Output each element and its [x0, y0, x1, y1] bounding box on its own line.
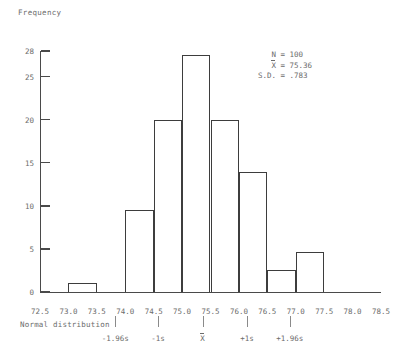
sd-marker-mean: X — [200, 334, 205, 343]
histogram-bar — [239, 172, 267, 293]
y-axis-title: Frequency — [18, 8, 61, 17]
x-tick-label: 76.0 — [224, 307, 254, 316]
stat-mean-value: = 75.36 — [281, 61, 313, 70]
stats-annotation: N = 100 X = 75.36 S.D. = .783 — [250, 50, 312, 82]
y-tick-label: 0 — [8, 288, 34, 297]
sd-marker-label: X — [183, 334, 223, 343]
sd-tick-mark — [203, 316, 204, 327]
stat-n: N = 100 — [250, 50, 312, 61]
sd-tick-mark — [247, 316, 248, 327]
histogram-bar — [182, 55, 210, 292]
histogram-bar — [154, 120, 182, 292]
x-tick-label: 78.5 — [366, 307, 395, 316]
stat-sd-label: S.D. — [250, 71, 276, 82]
x-tick-label: 74.0 — [110, 307, 140, 316]
sd-tick-mark — [115, 316, 116, 327]
stat-mean: X = 75.36 — [250, 61, 312, 72]
histogram-bar — [125, 210, 153, 292]
stat-sd: S.D. = .783 — [250, 71, 312, 82]
histogram-bar — [211, 120, 239, 292]
stat-sd-value: = .783 — [281, 71, 308, 80]
histogram-bar — [267, 270, 295, 292]
y-tick-label: 5 — [8, 245, 34, 254]
stat-mean-label: X — [271, 61, 276, 72]
x-axis-title: Normal distribution — [20, 320, 110, 329]
sd-marker-label: -1.96s — [95, 334, 135, 343]
x-tick-label: 73.0 — [53, 307, 83, 316]
x-tick-label: 75.5 — [196, 307, 226, 316]
x-tick-label: 77.5 — [309, 307, 339, 316]
x-tick-label: 72.5 — [25, 307, 55, 316]
x-tick-label: 78.0 — [338, 307, 368, 316]
x-tick-label: 76.5 — [252, 307, 282, 316]
y-tick-label: 28 — [8, 47, 34, 56]
stat-n-value: = 100 — [281, 50, 304, 59]
y-tick-label: 15 — [8, 159, 34, 168]
sd-marker-label: -1s — [138, 334, 178, 343]
x-tick-label: 74.5 — [139, 307, 169, 316]
y-tick-label: 20 — [8, 116, 34, 125]
histogram-bar — [296, 252, 324, 292]
y-tick-label: 10 — [8, 202, 34, 211]
sd-marker-label: +1s — [227, 334, 267, 343]
histogram-bar — [68, 283, 96, 292]
sd-marker-label: +1.96s — [270, 334, 310, 343]
histogram-bars — [40, 51, 381, 292]
y-tick-label: 25 — [8, 73, 34, 82]
x-tick-label: 77.0 — [281, 307, 311, 316]
x-tick-label: 73.5 — [82, 307, 112, 316]
x-tick-label: 75.0 — [167, 307, 197, 316]
sd-tick-mark — [158, 316, 159, 327]
sd-tick-mark — [290, 316, 291, 327]
